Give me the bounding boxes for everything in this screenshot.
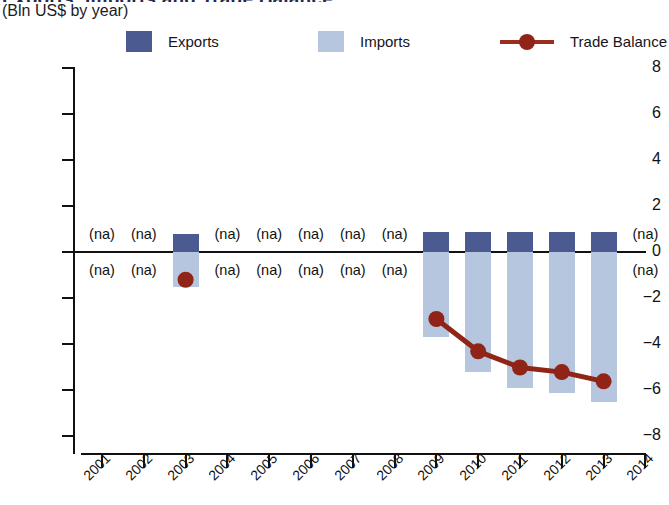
y-tick-m8 [62,435,74,437]
bar-imports-2012 [549,252,575,393]
y-tick-6 [62,113,74,115]
bar-exports-2010 [465,232,491,252]
y-tick-label-4: 4 [609,151,661,167]
y-tick-4 [62,159,74,161]
y-tick-m2 [62,297,74,299]
bar-imports-2011 [507,252,533,388]
y-tick-label-8: 8 [609,59,661,75]
na-label-2001-below: (na) [78,262,126,278]
na-label-2006-above: (na) [287,226,335,242]
bar-imports-2010 [465,252,491,372]
na-label-2008-below: (na) [371,262,419,278]
na-label-2006-below: (na) [287,262,335,278]
na-label-2004-below: (na) [203,262,251,278]
na-label-2007-below: (na) [329,262,377,278]
y-tick-label-m6: −6 [609,381,661,397]
bar-imports-2003 [173,252,199,287]
na-label-2004-above: (na) [203,226,251,242]
y-tick-label-m2: −2 [609,289,661,305]
na-label-2014-above: (na) [621,226,669,242]
na-label-2008-above: (na) [371,226,419,242]
y-tick-m4 [62,343,74,345]
y-tick-2 [62,205,74,207]
bar-exports-2003 [173,234,199,252]
bar-exports-2011 [507,232,533,252]
na-label-2014-below: (na) [621,262,669,278]
y-tick-label-2: 2 [609,197,661,213]
na-label-2001-above: (na) [78,226,126,242]
na-label-2007-above: (na) [329,226,377,242]
y-tick-label-m8: −8 [609,427,661,443]
bar-imports-2013 [591,252,617,402]
y-tick-label-m4: −4 [609,335,661,351]
y-tick-label-6: 6 [609,105,661,121]
bar-imports-2009 [423,252,449,337]
y-tick-m6 [62,389,74,391]
na-label-2002-above: (na) [120,226,168,242]
bar-exports-2012 [549,232,575,252]
na-label-2002-below: (na) [120,262,168,278]
y-axis-line [73,67,75,454]
bar-exports-2013 [591,232,617,252]
x-tick-label-2011: 2011 [498,451,531,484]
na-label-2005-below: (na) [245,262,293,278]
bar-exports-2009 [423,232,449,252]
y-tick-8 [62,67,74,69]
na-label-2005-above: (na) [245,226,293,242]
